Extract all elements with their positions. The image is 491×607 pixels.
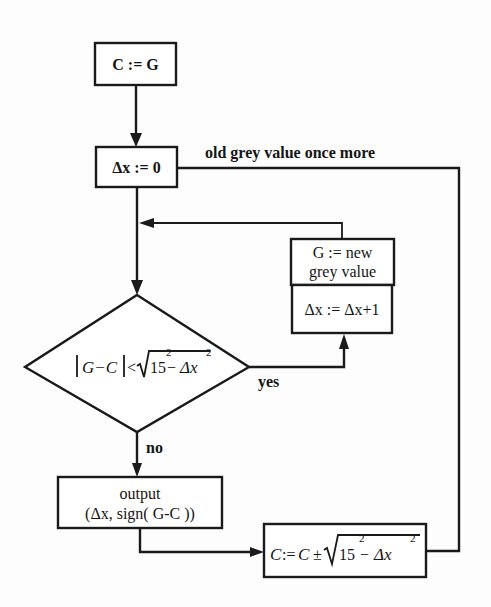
node-increment: Δx := Δx+1	[292, 285, 392, 333]
decision-rhs-minus: −	[167, 359, 176, 376]
update-pm: ±	[313, 546, 322, 563]
decision-rhs-exp2: 2	[206, 346, 212, 358]
update-lhs: C	[270, 545, 282, 564]
node-reset-label: Δx := 0	[112, 159, 160, 176]
arrowhead-down-icon	[130, 133, 142, 147]
arrowhead-down-icon	[132, 463, 142, 477]
update-rhs-base: 15	[339, 546, 355, 563]
update-rhs-c: C	[298, 545, 310, 564]
edge-label-yes: yes	[258, 373, 279, 391]
edge-reset-to-decision	[131, 187, 143, 295]
decision-rhs-base: 15	[150, 359, 166, 376]
decision-lhs: G−C	[82, 358, 118, 377]
node-init-label: C := G	[112, 56, 159, 73]
update-rhs-var: Δx	[373, 545, 392, 564]
node-decision: G−C < 15 2 − Δx 2	[25, 295, 249, 432]
node-new-grey: G := new grey value	[291, 239, 394, 285]
decision-rhs-var: Δx	[179, 358, 198, 377]
update-rhs-exp1: 2	[359, 532, 365, 544]
edge-label-no: no	[146, 439, 163, 456]
node-update: C := C ± 15 2 − Δx 2	[264, 524, 426, 577]
node-new-grey-line2: grey value	[309, 263, 376, 281]
node-output: output (Δx, sign( G-C ))	[58, 477, 222, 528]
arrowhead-up-icon	[339, 334, 349, 349]
node-output-line2: (Δx, sign( G-C ))	[85, 505, 195, 523]
edge-decision-yes	[249, 334, 349, 367]
edge-newgrey-to-decision	[139, 218, 342, 239]
flowchart: C := G Δx := 0 old grey value once more …	[0, 0, 491, 607]
node-increment-label: Δx := Δx+1	[304, 301, 379, 318]
arrowhead-left-icon	[139, 218, 154, 228]
decision-op: <	[127, 359, 136, 376]
edge-init-to-reset	[130, 85, 142, 147]
node-init: C := G	[95, 43, 176, 85]
update-rhs-exp2: 2	[410, 532, 416, 544]
edge-output-to-update	[140, 528, 264, 557]
arrowhead-down-icon	[131, 280, 143, 295]
decision-rhs-exp1: 2	[166, 346, 172, 358]
update-rhs-minus: −	[360, 546, 369, 563]
node-output-line1: output	[120, 485, 161, 503]
edge-label-loop-back: old grey value once more	[205, 144, 375, 162]
edge-decision-no	[132, 432, 142, 477]
arrowhead-right-icon	[250, 547, 264, 557]
node-new-grey-line1: G := new	[313, 244, 373, 261]
node-reset: Δx := 0	[96, 147, 177, 187]
update-assign: :=	[282, 546, 295, 563]
